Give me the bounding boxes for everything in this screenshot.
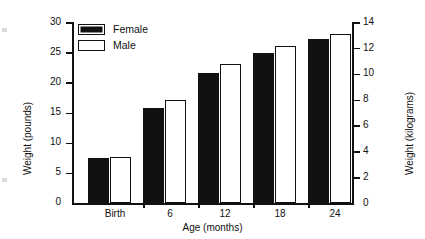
y-tick-label-right-12: 12 [363, 43, 374, 53]
y-tick-label-right-14: 14 [363, 17, 374, 27]
y-tick-right-6 [353, 125, 360, 127]
x-axis-line [72, 203, 354, 205]
bar-female-24 [308, 39, 329, 203]
scan-edge-mark [2, 178, 7, 182]
y-tick-left-20 [66, 82, 73, 84]
bar-male-12 [220, 64, 241, 203]
x-tick-label-6: 6 [143, 208, 197, 219]
y-tick-left-15 [66, 113, 73, 115]
y-tick-label-right-8: 8 [363, 94, 369, 104]
y-tick-label-right-6: 6 [363, 120, 369, 130]
y-tick-label-right-10: 10 [363, 68, 374, 78]
bar-female-6 [143, 108, 164, 203]
legend-swatch-male-icon [78, 40, 105, 51]
y-tick-label-left-0: 0 [36, 197, 61, 207]
y-tick-label-left-30: 30 [36, 17, 61, 27]
y-tick-label-left-10: 10 [36, 137, 61, 147]
y-axis-right-title: Weight (kilograms) [404, 92, 415, 175]
y-tick-right-4 [353, 151, 360, 153]
y-tick-label-left-25: 25 [36, 47, 61, 57]
bar-group-12 [198, 22, 241, 203]
y-tick-right-14 [353, 22, 360, 24]
y-tick-right-2 [353, 177, 360, 179]
y-tick-label-right-2: 2 [363, 172, 369, 182]
bar-female-12 [198, 73, 219, 203]
legend-item-female: Female [78, 21, 148, 37]
bar-group-6 [143, 22, 186, 203]
y-tick-label-right-4: 4 [363, 146, 369, 156]
x-axis-title: Age (months) [0, 222, 425, 233]
y-tick-left-10 [66, 143, 73, 145]
legend: Female Male [78, 21, 148, 53]
x-tick-label-18: 18 [253, 208, 307, 219]
y-tick-left-30 [66, 22, 73, 24]
x-tick-label-24: 24 [308, 208, 362, 219]
y-tick-label-left-15: 15 [36, 107, 61, 117]
bar-male-6 [165, 100, 186, 203]
y-tick-label-left-20: 20 [36, 77, 61, 87]
y-tick-left-25 [66, 52, 73, 54]
bar-group-24 [308, 22, 351, 203]
bar-female-18 [253, 53, 274, 203]
bar-chart-figure: 30 25 20 15 10 5 0 14 12 10 8 6 4 2 0 [0, 0, 425, 239]
bar-male-18 [275, 46, 296, 203]
legend-item-male: Male [78, 37, 148, 53]
bar-male-24 [330, 34, 351, 203]
bar-group-18 [253, 22, 296, 203]
y-tick-left-5 [66, 173, 73, 175]
y-tick-right-12 [353, 48, 360, 50]
y-tick-right-10 [353, 74, 360, 76]
y-tick-right-8 [353, 100, 360, 102]
y-tick-label-right-0: 0 [363, 198, 369, 208]
x-tick-label-12: 12 [198, 208, 252, 219]
x-tick-label-birth: Birth [88, 208, 142, 219]
legend-swatch-female-icon [78, 24, 105, 35]
scan-edge-mark [2, 28, 7, 32]
bar-female-birth [88, 158, 109, 203]
y-axis-left-title: Weight (pounds) [22, 102, 33, 175]
legend-label-male: Male [113, 39, 136, 51]
legend-label-female: Female [113, 23, 148, 35]
bar-male-birth [110, 157, 131, 204]
y-tick-label-left-5: 5 [36, 167, 61, 177]
